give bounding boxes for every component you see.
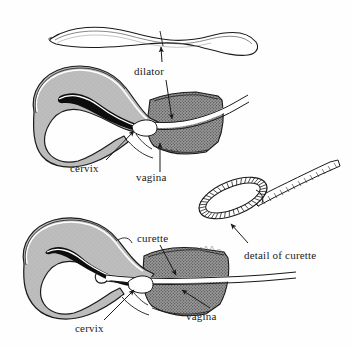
- leader-dilator-to-rod: [161, 47, 162, 62]
- label-detail-of-curette: detail of curette: [244, 250, 316, 261]
- upper-uterus-diagram: [33, 66, 249, 167]
- label-cervix-lower: cervix: [75, 323, 104, 334]
- label-dilator: dilator: [134, 66, 164, 77]
- dilator-instrument: [49, 27, 258, 55]
- illustration-canvas: [0, 0, 352, 349]
- medical-illustration-figure: dilator cervix vagina curette detail of …: [0, 0, 352, 349]
- label-curette: curette: [137, 233, 168, 244]
- leader-detail-of-curette: [231, 224, 248, 243]
- label-vagina-upper: vagina: [136, 172, 167, 183]
- label-vagina-lower: vagina: [186, 311, 217, 322]
- label-cervix-upper: cervix: [70, 163, 99, 174]
- curette-detail-drawing: [193, 160, 340, 227]
